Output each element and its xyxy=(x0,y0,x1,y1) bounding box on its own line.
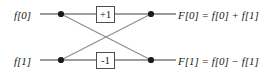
gain-box-plus-one: +1 xyxy=(96,6,115,23)
output-label-F0: F[0] = f[0] + f[1] xyxy=(178,10,259,21)
input-label-f0: f[0] xyxy=(14,10,31,21)
butterfly-diagram: +1 -1 f[0] f[1] F[0] = f[0] + f[1] F[1] … xyxy=(0,0,280,75)
node-dot-input-top xyxy=(58,11,64,17)
input-label-f1: f[1] xyxy=(14,56,31,67)
node-dot-output-bottom xyxy=(148,57,154,63)
node-dot-input-bottom xyxy=(58,57,64,63)
node-dot-output-top xyxy=(148,11,154,17)
output-label-F1: F[1] = f[0] − f[1] xyxy=(178,56,259,67)
gain-box-minus-one: -1 xyxy=(96,52,115,69)
